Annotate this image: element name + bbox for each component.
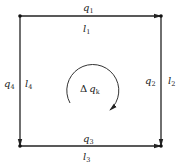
- flow-label-q2: q2: [145, 75, 156, 88]
- length-label-l3: l3: [83, 151, 90, 164]
- flow-label-q3: q3: [83, 133, 94, 146]
- node-bottom-right: [159, 144, 163, 148]
- flow-label-q1: q1: [83, 2, 94, 15]
- loop-correction-label: Δqk: [80, 83, 100, 96]
- length-label-l1: l1: [83, 23, 90, 36]
- node-bottom-left: [18, 144, 22, 148]
- pipe-loop-diagram: q1 l1 q2 l2 q3 l3 q4 l4 Δqk: [0, 0, 185, 165]
- flow-label-q4: q4: [4, 78, 15, 91]
- node-top-right: [159, 14, 163, 18]
- node-top-left: [18, 14, 22, 18]
- length-label-l2: l2: [168, 75, 175, 88]
- length-label-l4: l4: [25, 78, 32, 91]
